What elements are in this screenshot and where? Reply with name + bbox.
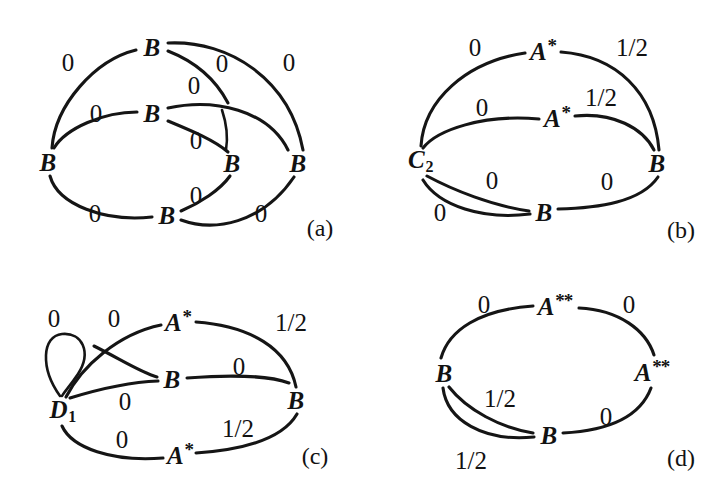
panel-b: A* A* C2 B B 0 1/2 0 1/2 0 0 0 (b)	[361, 0, 722, 248]
edge-atop-argt	[579, 308, 654, 355]
edge-inner-crossing	[222, 110, 227, 150]
edge-weight-label: 0	[476, 95, 489, 120]
edge-weight-label: 0	[283, 50, 296, 75]
edge-weight-label: 0	[190, 128, 203, 153]
edge-weight-label: 0	[255, 201, 268, 226]
node-d1: D1	[49, 397, 76, 425]
edge-weight-label: 0	[233, 354, 246, 379]
edge-weight-label: 1/2	[275, 310, 307, 335]
panel-a-edges	[0, 0, 361, 248]
edge-weight-label: 1/2	[585, 85, 617, 110]
edge-weight-label: 0	[601, 169, 614, 194]
panel-caption: (a)	[307, 216, 334, 240]
edge-c2-a1	[421, 53, 525, 146]
edge-weight-label: 0	[623, 292, 636, 317]
panel-caption: (c)	[302, 444, 329, 468]
node-b-right: B	[290, 151, 307, 176]
edge-weight-label: 1/2	[222, 416, 254, 441]
node-b-right: B	[649, 151, 666, 176]
node-a-doublestar-top: A**	[538, 291, 572, 319]
edge-a2-bright	[575, 115, 654, 150]
node-c2: C2	[408, 147, 434, 175]
node-a-star-top: A*	[165, 307, 191, 335]
edge-weight-label: 0	[469, 35, 482, 60]
edge-crossing-bmid	[94, 346, 157, 377]
node-b-bottom: B	[536, 200, 553, 225]
edge-weight-label: 0	[600, 404, 613, 429]
edge-weight-label: 0	[116, 427, 129, 452]
edge-weight-label: 0	[89, 201, 102, 226]
panel-c: A* B D1 B A* 0 0 1/2 0 0 0 1/2 (c)	[0, 248, 361, 496]
node-b-top: B	[144, 35, 161, 60]
panel-d: A** B A** B 0 0 1/2 1/2 0 (d)	[361, 248, 722, 496]
node-a-star-top: A*	[530, 36, 556, 64]
panel-caption: (d)	[667, 446, 695, 470]
node-a-star-mid: A*	[544, 103, 570, 131]
node-b-mid: B	[144, 101, 161, 126]
edge-weight-label: 0	[119, 389, 132, 414]
edge-weight-label: 1/2	[484, 386, 516, 411]
edge-weight-label: 0	[62, 50, 75, 75]
edge-weight-label: 1/2	[455, 448, 487, 473]
edge-d1-selfloop	[46, 334, 85, 396]
edge-weight-label: 0	[478, 292, 491, 317]
edge-weight-label: 1/2	[616, 35, 648, 60]
edge-bottom-inner	[181, 176, 230, 211]
node-b-bottom: B	[159, 203, 176, 228]
edge-weight-label: 0	[188, 73, 201, 98]
edge-weight-label: 0	[48, 306, 61, 331]
edge-d1-bmid	[70, 381, 158, 398]
node-a-star-bottom: A*	[167, 440, 193, 468]
node-a-doublestar-right: A**	[635, 357, 669, 385]
edge-weight-label: 0	[108, 306, 121, 331]
edge-weight-label: 0	[216, 51, 229, 76]
node-b-inner: B	[224, 151, 241, 176]
node-b-left: B	[436, 361, 453, 386]
node-b-left: B	[40, 150, 57, 175]
node-b-right: B	[288, 388, 305, 413]
node-b-bottom: B	[541, 423, 558, 448]
edge-weight-label: 0	[434, 200, 447, 225]
edge-weight-label: 0	[486, 168, 499, 193]
figure-canvas: B B B B B B 0 0 0 0 0 0 0 0 0 (a)	[0, 0, 722, 496]
edge-c2-a2	[423, 118, 539, 148]
panel-caption: (b)	[667, 218, 695, 242]
panel-a: B B B B B B 0 0 0 0 0 0 0 0 0 (a)	[0, 0, 361, 248]
edge-d1-a2	[62, 426, 163, 459]
node-b-mid: B	[164, 367, 181, 392]
edge-weight-label: 0	[190, 183, 203, 208]
edge-weight-label: 0	[90, 101, 103, 126]
